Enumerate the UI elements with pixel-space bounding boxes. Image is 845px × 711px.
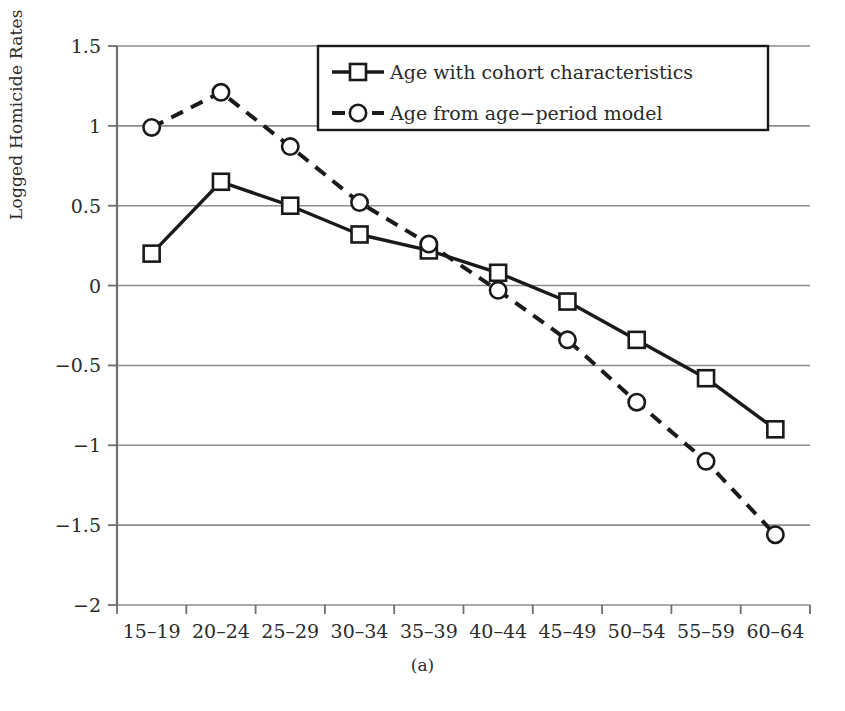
x-axis-tick-label: 45–49	[539, 620, 597, 642]
series-line-2	[152, 92, 776, 534]
data-point-marker	[698, 453, 714, 469]
x-axis-tick-label: 50–54	[608, 620, 666, 642]
data-point-marker	[351, 194, 367, 210]
data-point-marker	[143, 119, 159, 135]
x-axis-tick-label: 35–39	[400, 620, 458, 642]
data-point-marker	[698, 370, 714, 386]
x-axis-tick-label: 30–34	[331, 620, 389, 642]
y-axis-tick-label: −1.5	[55, 514, 101, 536]
data-point-marker	[490, 282, 506, 298]
y-axis-tick-label: 1.5	[71, 35, 101, 57]
data-point-marker	[629, 394, 645, 410]
x-axis-tick-label: 55–59	[677, 620, 735, 642]
y-axis-tick-label: 0	[89, 275, 101, 297]
data-point-marker	[421, 236, 437, 252]
data-point-marker	[282, 198, 298, 214]
legend: Age with cohort characteristicsAge from …	[318, 46, 768, 130]
data-point-marker	[490, 265, 506, 281]
y-axis-tick-label: 1	[89, 115, 101, 137]
figure-container: 1.510.50−0.5−1−1.5−2 15–1920–2425–2930–3…	[0, 0, 845, 711]
data-point-marker	[213, 174, 229, 190]
data-point-marker	[767, 421, 783, 437]
x-axis-tick-label: 15–19	[123, 620, 181, 642]
legend-marker-1	[350, 64, 366, 80]
x-axis-tick-label: 25–29	[261, 620, 319, 642]
legend-marker-2	[350, 105, 366, 121]
legend-label-1: Age with cohort characteristics	[389, 61, 693, 83]
y-axis-title: Logged Homicide Rates	[6, 0, 26, 220]
data-series-group	[143, 84, 783, 543]
data-point-marker	[767, 527, 783, 543]
data-point-marker	[559, 332, 575, 348]
data-point-marker	[559, 294, 575, 310]
y-axis-tick-label: 0.5	[71, 195, 101, 217]
x-axis-ticks-group	[117, 605, 810, 614]
x-axis-tick-label: 40–44	[469, 620, 527, 642]
data-point-marker	[352, 226, 368, 242]
legend-label-2: Age from age−period model	[389, 102, 663, 124]
y-axis-tick-label: −1	[73, 434, 101, 456]
data-point-marker	[144, 246, 160, 262]
y-axis-tick-labels-group: 1.510.50−0.5−1−1.5−2	[55, 35, 101, 616]
line-chart: 1.510.50−0.5−1−1.5−2 15–1920–2425–2930–3…	[0, 0, 845, 711]
y-axis-tick-label: −0.5	[55, 354, 101, 376]
x-axis-tick-label: 60–64	[746, 620, 804, 642]
series-line-1	[152, 182, 776, 429]
figure-caption: (a)	[0, 655, 845, 675]
data-point-marker	[213, 84, 229, 100]
x-axis-tick-labels-group: 15–1920–2425–2930–3435–3940–4445–4950–54…	[123, 620, 805, 642]
data-point-marker	[282, 138, 298, 154]
y-axis-tick-label: −2	[73, 594, 101, 616]
data-point-marker	[629, 332, 645, 348]
x-axis-tick-label: 20–24	[192, 620, 250, 642]
